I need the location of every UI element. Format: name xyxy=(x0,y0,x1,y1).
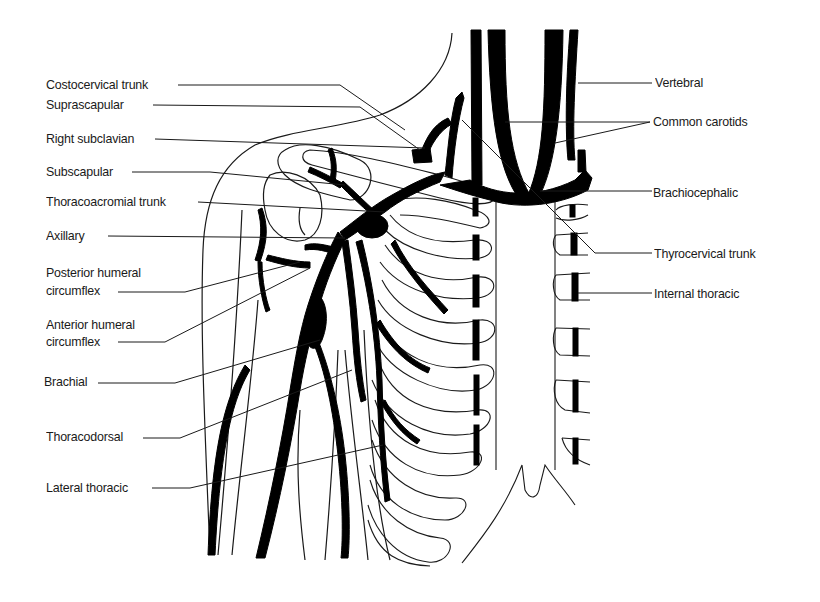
label-axillary: Axillary xyxy=(46,228,85,244)
label-right-subclavian: Right subclavian xyxy=(46,131,134,147)
label-anterior-humeral-circumflex-line2: circumflex xyxy=(46,334,100,350)
label-vertebral: Vertebral xyxy=(655,75,703,91)
label-brachial: Brachial xyxy=(44,374,87,390)
label-brachiocephalic: Brachiocephalic xyxy=(653,185,738,201)
label-posterior-humeral-circumflex-line1: Posterior humeral xyxy=(46,265,141,281)
label-subscapular: Subscapular xyxy=(46,164,113,180)
label-posterior-humeral-circumflex-line2: circumflex xyxy=(46,283,100,299)
label-suprascapular: Suprascapular xyxy=(46,97,124,113)
label-anterior-humeral-circumflex-line1: Anterior humeral xyxy=(46,317,135,333)
label-lateral-thoracic: Lateral thoracic xyxy=(46,480,128,496)
label-costocervical-trunk: Costocervical trunk xyxy=(46,77,148,93)
arteries xyxy=(208,30,592,558)
label-thoracodorsal: Thoracodorsal xyxy=(46,429,123,445)
label-internal-thoracic: Internal thoracic xyxy=(654,286,739,302)
label-common-carotids: Common carotids xyxy=(653,114,748,130)
label-thoracoacromial-trunk: Thoracoacromial trunk xyxy=(46,194,166,210)
label-thyrocervical-trunk: Thyrocervical trunk xyxy=(654,246,755,262)
